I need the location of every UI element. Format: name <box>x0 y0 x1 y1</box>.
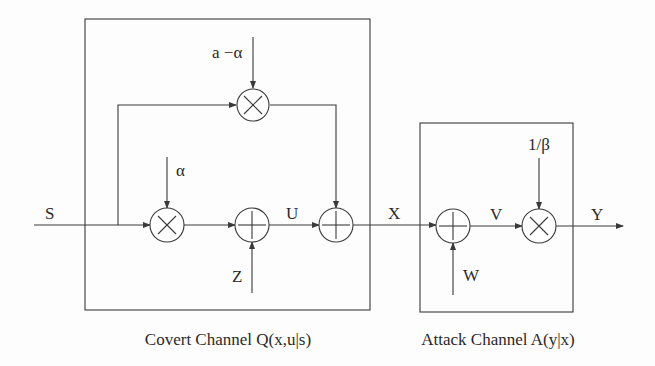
label-y: Y <box>591 205 603 224</box>
caption-attack-channel: Attack Channel A(y|x) <box>421 330 575 349</box>
label-v: V <box>490 205 503 224</box>
block-diagram: S a −α α Z U X W V 1/β Y Covert Channel … <box>0 0 655 366</box>
mul-beta-node <box>522 209 556 243</box>
add-u-node <box>319 208 353 242</box>
caption-covert-channel: Covert Channel Q(x,u|s) <box>145 330 311 349</box>
feedforward-line <box>270 105 336 208</box>
label-w: W <box>463 266 480 285</box>
label-z: Z <box>232 267 242 286</box>
mul-alpha-node <box>150 208 184 242</box>
label-u: U <box>286 204 298 223</box>
label-alpha: α <box>176 161 185 180</box>
diagram-canvas: S a −α α Z U X W V 1/β Y Covert Channel … <box>0 0 655 366</box>
add-z-node <box>235 208 269 242</box>
covert-channel-box <box>85 19 370 310</box>
label-inv-beta: 1/β <box>528 135 550 154</box>
label-a-minus-alpha: a −α <box>212 43 242 62</box>
label-x: X <box>388 204 400 223</box>
mul-a-alpha-node <box>237 89 269 121</box>
label-s: S <box>45 204 54 223</box>
add-w-node <box>436 209 470 243</box>
